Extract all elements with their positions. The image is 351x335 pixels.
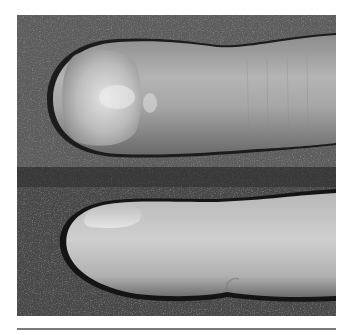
- finger-photo-figure: Two grayscale photographs of a fingertip…: [17, 15, 336, 316]
- horizontal-rule: [17, 328, 336, 330]
- top-panel: [17, 15, 336, 167]
- bottom-panel: [17, 167, 336, 316]
